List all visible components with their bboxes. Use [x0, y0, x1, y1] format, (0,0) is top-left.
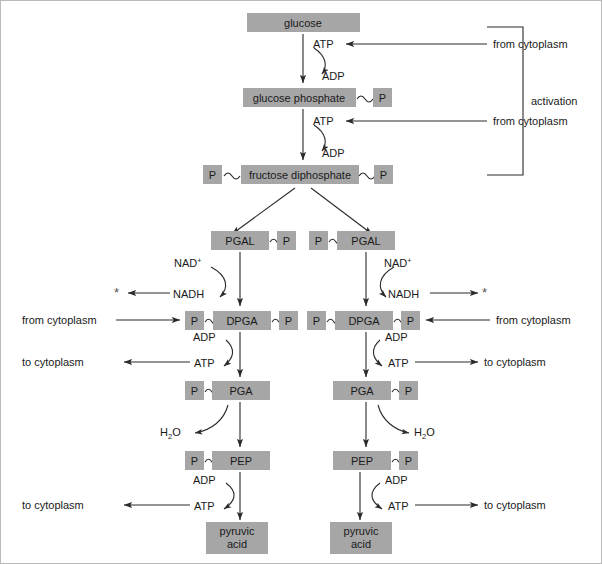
curve-h2o-release-right — [378, 405, 409, 433]
asterisk-right: * — [482, 285, 487, 300]
phosphate-label-pep-left: P — [191, 455, 198, 467]
water-label-right: H2O — [414, 426, 435, 441]
phosphate-label-pgal-left: P — [283, 235, 290, 247]
adp-label-pyruvic-left: ADP — [193, 474, 216, 486]
phosphate-label-dpga-right-2: P — [407, 315, 414, 327]
curve-adp-to-atp-pyruvic-right — [372, 483, 382, 509]
to-cytoplasm-label-pga-right: to cytoplasm — [484, 356, 546, 368]
node-dpga-right: P DPGA P — [307, 311, 420, 330]
atp-label-pyruvic-right: ATP — [388, 500, 409, 512]
node-pyruvic-acid-left-line1: pyruvic — [220, 525, 255, 537]
arrow-split-right — [311, 188, 372, 234]
phosphate-label-fructose-right: P — [380, 169, 387, 181]
phosphate-label-pep-right: P — [405, 455, 412, 467]
atp-label-pyruvic-left: ATP — [194, 500, 215, 512]
figure-border — [1, 1, 602, 564]
node-fructose-diphosphate-label: fructose diphosphate — [249, 169, 351, 181]
phosphate-label-dpga-left-1: P — [191, 315, 198, 327]
nadh-label-left: NADH — [173, 288, 204, 300]
atp-label-pga-left: ATP — [194, 357, 215, 369]
atp-label-pga-right: ATP — [388, 357, 409, 369]
node-pga-left-label: PGA — [229, 385, 253, 397]
nadh-label-right: NADH — [388, 288, 419, 300]
from-cytoplasm-label-dpga-left: from cytoplasm — [22, 314, 97, 326]
node-pga-left: P PGA — [185, 381, 270, 400]
node-pyruvic-acid-right-line1: pyruvic — [344, 525, 379, 537]
adp-label-step1: ADP — [322, 70, 345, 82]
node-pep-left-label: PEP — [230, 455, 252, 467]
node-glucose: glucose — [247, 13, 360, 32]
curve-adp-to-atp-right — [373, 340, 382, 366]
atp-label-step2: ATP — [313, 115, 334, 127]
from-cytoplasm-label-dpga-right: from cytoplasm — [496, 314, 571, 326]
node-glucose-phosphate-label: glucose phosphate — [253, 92, 345, 104]
adp-label-pga-right: ADP — [385, 331, 408, 343]
asterisk-left: * — [114, 285, 119, 300]
from-cytoplasm-label-step1: from cytoplasm — [493, 38, 568, 50]
curve-h2o-release-left — [195, 405, 228, 433]
to-cytoplasm-label-pyruvic-left: to cytoplasm — [22, 499, 84, 511]
node-pga-right: PGA P — [333, 381, 418, 400]
node-fructose-diphosphate: P fructose diphosphate P — [203, 165, 393, 184]
water-label-left: H2O — [160, 426, 181, 441]
node-pep-left: P PEP — [185, 451, 270, 470]
node-pep-right: PEP P — [333, 451, 418, 470]
node-pyruvic-acid-left-line2: acid — [227, 538, 247, 550]
squiggle-bond-fructose-left — [224, 173, 240, 179]
node-dpga-left-label: DPGA — [226, 315, 258, 327]
node-pep-right-label: PEP — [351, 455, 373, 467]
node-pyruvic-acid-right: pyruvic acid — [330, 522, 392, 554]
node-pgal-left: PGAL P — [211, 231, 296, 250]
node-dpga-left: P DPGA P — [185, 311, 298, 330]
adp-label-pga-left: ADP — [193, 331, 216, 343]
node-glucose-label: glucose — [284, 17, 322, 29]
node-pyruvic-acid-right-line2: acid — [351, 538, 371, 550]
to-cytoplasm-label-pga-left: to cytoplasm — [22, 356, 84, 368]
phosphate-label-dpga-left-2: P — [285, 315, 292, 327]
adp-label-pyruvic-right: ADP — [385, 474, 408, 486]
node-pgal-left-label: PGAL — [225, 235, 254, 247]
nad-label-right: NAD+ — [384, 257, 411, 269]
phosphate-label-fructose-left: P — [209, 169, 216, 181]
squiggle-bond-glucose-phosphate — [357, 96, 373, 102]
adp-label-step2: ADP — [322, 147, 345, 159]
glycolysis-diagram: glucose ATP ADP from cytoplasm glucose p… — [0, 0, 602, 564]
node-glucose-phosphate: glucose phosphate P — [243, 88, 392, 107]
nad-label-left: NAD+ — [174, 257, 201, 269]
curve-adp-to-atp-left — [224, 340, 233, 366]
phosphate-label-glucose-phosphate: P — [379, 92, 386, 104]
node-pgal-right-label: PGAL — [351, 235, 380, 247]
atp-label-step1: ATP — [313, 38, 334, 50]
to-cytoplasm-label-pyruvic-right: to cytoplasm — [484, 499, 546, 511]
curve-adp-to-atp-pyruvic-left — [224, 483, 234, 509]
squiggle-bond-fructose-right — [359, 173, 375, 179]
phosphate-label-pgal-right: P — [315, 235, 322, 247]
node-dpga-right-label: DPGA — [348, 315, 380, 327]
curve-nad-to-nadh-left — [211, 267, 226, 297]
phosphate-label-pga-right: P — [405, 385, 412, 397]
node-pga-right-label: PGA — [350, 385, 374, 397]
node-pyruvic-acid-left: pyruvic acid — [206, 522, 268, 554]
phosphate-label-pga-left: P — [191, 385, 198, 397]
phosphate-label-dpga-right-1: P — [313, 315, 320, 327]
node-pgal-right: P PGAL — [309, 231, 395, 250]
arrow-split-left — [232, 188, 295, 234]
activation-label: activation — [531, 95, 577, 107]
from-cytoplasm-label-step2: from cytoplasm — [493, 115, 568, 127]
